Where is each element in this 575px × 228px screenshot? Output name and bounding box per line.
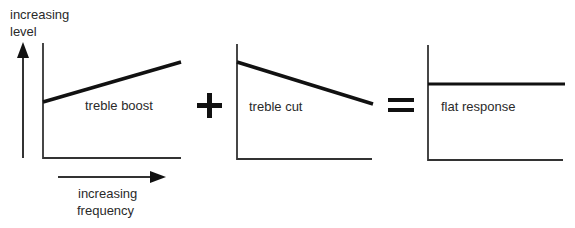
equals-icon xyxy=(388,98,414,112)
treble-boost-label: treble boost xyxy=(85,97,153,114)
flat-response-label: flat response xyxy=(441,98,515,115)
treble-cut-label: treble cut xyxy=(249,98,302,115)
frequency-arrow-icon xyxy=(58,171,166,183)
y-axis-label-line2: level xyxy=(10,23,37,40)
x-axis-label-line2: frequency xyxy=(77,202,134,219)
boost-curve xyxy=(43,62,181,102)
y-axis-label-line1: increasing xyxy=(10,6,69,23)
level-arrow-icon xyxy=(17,42,29,158)
plus-icon xyxy=(197,93,222,118)
x-axis-label-line1: increasing xyxy=(78,185,137,202)
